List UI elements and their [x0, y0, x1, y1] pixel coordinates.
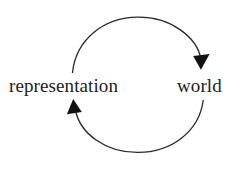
node-label-representation: representation — [9, 76, 118, 95]
cycle-diagram: representation world — [0, 0, 240, 174]
arc-top-path — [73, 17, 201, 72]
arc-bottom-path — [76, 101, 204, 153]
edge-world-to-representation — [67, 99, 203, 152]
node-label-world: world — [177, 76, 222, 95]
edge-representation-to-world — [73, 17, 210, 72]
arrowhead-down-icon — [193, 54, 209, 70]
arrowhead-up-icon — [67, 99, 82, 114]
